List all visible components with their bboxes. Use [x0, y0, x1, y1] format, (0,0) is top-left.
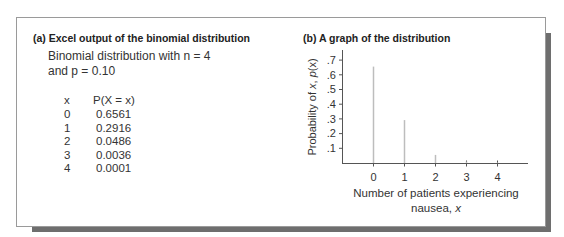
svg-text:.5: .5: [327, 83, 336, 95]
svg-text:1: 1: [401, 171, 407, 183]
x-axis-label-line2: nausea, x: [411, 202, 462, 214]
y-tick-labels: .1 .2 .3 .4 .5 .6 .7: [327, 54, 336, 154]
svg-text:4: 4: [494, 171, 500, 183]
y-ticks: [339, 60, 342, 148]
x-tick-labels: 0 1 2 3 4: [370, 171, 500, 183]
svg-text:.2: .2: [327, 127, 336, 139]
svg-text:.7: .7: [327, 54, 336, 66]
y-axis-label: Probability of x, p(x): [306, 58, 318, 155]
svg-text:.1: .1: [327, 142, 336, 154]
svg-text:.6: .6: [327, 69, 336, 81]
x-axis-label-line1: Number of patients experiencing: [353, 187, 519, 199]
binomial-chart: Probability of x, p(x) .1 .2 .3 .4 .5 .6…: [0, 0, 564, 237]
svg-text:3: 3: [463, 171, 469, 183]
svg-text:2: 2: [432, 171, 438, 183]
probability-spikes: [374, 67, 498, 163]
svg-text:.3: .3: [327, 113, 336, 125]
svg-text:.4: .4: [327, 98, 336, 110]
svg-text:0: 0: [370, 171, 376, 183]
